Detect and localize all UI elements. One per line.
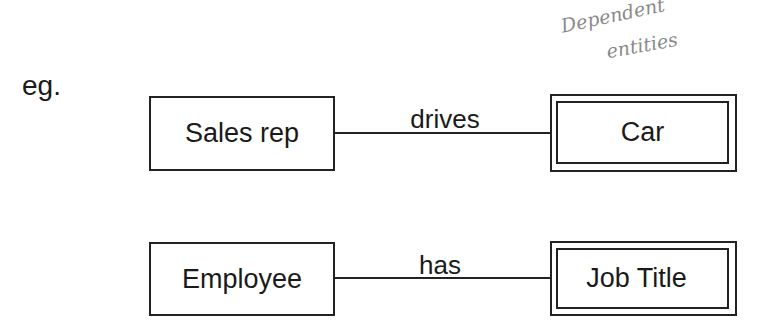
weak-entity-job-title-inner: Job Title (556, 248, 729, 309)
example-label: eg. (22, 70, 61, 102)
entity-label: Employee (182, 264, 302, 295)
weak-entity-label: Car (621, 117, 665, 148)
relationship-label-drives: drives (360, 104, 530, 135)
relationship-label-has: has (355, 250, 525, 281)
entity-sales-rep: Sales rep (149, 96, 335, 171)
entity-employee: Employee (149, 242, 335, 316)
handwritten-note-line2: entities (605, 28, 680, 62)
weak-entity-car-inner: Car (556, 101, 729, 164)
weak-entity-label: Job Title (586, 263, 687, 294)
entity-label: Sales rep (185, 118, 299, 149)
